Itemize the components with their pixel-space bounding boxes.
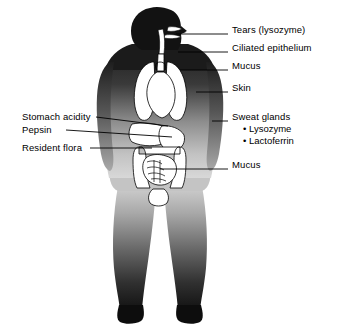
sublabel-lysozyme: • Lysozyme [243, 123, 291, 134]
label-pepsin: Pepsin [22, 124, 52, 135]
left-leg [113, 186, 156, 310]
bullet-glyph-lactoferrin: • [243, 135, 246, 146]
label-resident-flora: Resident flora [22, 142, 82, 153]
label-mucus-lower: Mucus [232, 159, 260, 170]
right-foot [176, 305, 203, 324]
small-intestine [143, 155, 177, 186]
diagram-canvas: Tears (lysozyme) Ciliated epithelium Muc… [0, 0, 338, 331]
label-tears: Tears (lysozyme) [232, 24, 305, 35]
sublabel-lysozyme-text: Lysozyme [249, 123, 291, 134]
label-ciliated-epithelium: Ciliated epithelium [232, 42, 312, 53]
bullet-glyph-lysozyme: • [243, 123, 246, 134]
label-stomach-acidity: Stomach acidity [22, 111, 91, 122]
label-sweat-glands: Sweat glands [232, 111, 290, 122]
sublabel-lactoferrin-text: Lactoferrin [249, 135, 294, 146]
left-foot [117, 305, 144, 324]
bladder [149, 189, 169, 206]
sublabel-lactoferrin: • Lactoferrin [243, 135, 294, 146]
label-mucus-upper: Mucus [232, 60, 260, 71]
label-skin: Skin [232, 82, 251, 93]
right-leg [164, 186, 207, 310]
